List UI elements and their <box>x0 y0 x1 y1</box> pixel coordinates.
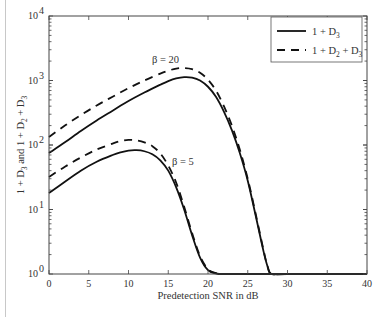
annotation-beta-5: β = 5 <box>172 156 194 167</box>
annotation-beta-20: β = 20 <box>152 54 179 65</box>
chart: 0510152025303540 100101102103104 Predete… <box>0 0 382 317</box>
series-line-3 <box>49 140 367 274</box>
x-tick-label: 40 <box>362 278 372 289</box>
y-tick-label: 10 <box>28 139 38 150</box>
series-line-0 <box>49 77 367 275</box>
y-tick-exponent: 1 <box>39 199 44 210</box>
x-tick-label: 35 <box>322 278 332 289</box>
y-axis-title: 1 + D3 and 1 + D2 + D3 <box>15 96 29 195</box>
x-tick-label: 0 <box>47 278 52 289</box>
x-tick-label: 20 <box>203 278 213 289</box>
x-tick-label: 25 <box>243 278 253 289</box>
y-tick-exponent: 3 <box>39 70 44 81</box>
y-tick-label: 10 <box>28 268 38 279</box>
y-tick-label: 10 <box>28 204 38 215</box>
legend: 1 + D3 1 + D2 + D3 <box>271 17 363 62</box>
x-tick-label: 15 <box>163 278 173 289</box>
y-tick-exponent: 2 <box>39 134 44 145</box>
series-line-2 <box>49 150 367 274</box>
y-tick-label: 10 <box>28 10 38 21</box>
y-tick-labels: 100101102103104 <box>28 5 44 279</box>
x-tick-label: 10 <box>124 278 134 289</box>
x-tick-labels: 0510152025303540 <box>47 278 373 289</box>
x-tick-label: 5 <box>86 278 91 289</box>
y-tick-exponent: 4 <box>39 5 44 16</box>
x-tick-label: 30 <box>283 278 293 289</box>
series-line-1 <box>49 68 367 275</box>
y-tick-exponent: 0 <box>39 263 44 274</box>
x-axis-title: Predetection SNR in dB <box>157 290 258 301</box>
y-tick-label: 10 <box>28 75 38 86</box>
plot-curves <box>49 68 367 275</box>
